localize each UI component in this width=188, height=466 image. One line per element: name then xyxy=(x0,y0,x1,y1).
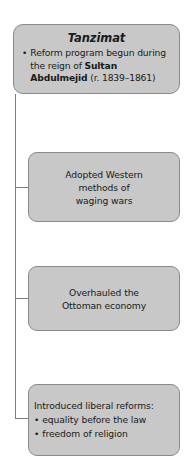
node-child-line: Overhauled the xyxy=(69,286,139,299)
root-bullet-item: • Reform program begun during the reign … xyxy=(20,47,173,85)
node-child-military: Adopted Western methods of waging wars xyxy=(28,152,180,222)
node-child-economy: Overhauled the Ottoman economy xyxy=(28,266,180,331)
bullet-dot-icon: • xyxy=(22,47,27,60)
root-bullet-text: Reform program begun during the reign of… xyxy=(30,47,173,85)
node-child-liberal-reforms: Introduced liberal reforms: • equality b… xyxy=(28,384,180,456)
node-child-line: waging wars xyxy=(76,194,133,207)
node-child-bullet-text: freedom of religion xyxy=(42,427,127,441)
root-title: Tanzimat xyxy=(20,32,173,45)
connector-stub-2 xyxy=(15,298,29,299)
connector-spine xyxy=(15,94,16,418)
node-root-tanzimat: Tanzimat • Reform program begun during t… xyxy=(13,24,180,94)
connector-stub-1 xyxy=(15,187,29,188)
node-child-bullet-item: • equality before the law xyxy=(34,413,146,427)
node-child-line: Ottoman economy xyxy=(62,299,146,312)
node-child-heading: Introduced liberal reforms: xyxy=(34,399,154,413)
tanzimat-flowchart: Tanzimat • Reform program begun during t… xyxy=(0,0,188,466)
bullet-dot-icon: • xyxy=(34,413,39,427)
root-bullet-tail: (r. 1839–1861) xyxy=(87,72,155,83)
node-child-bullet-text: equality before the law xyxy=(42,413,146,427)
connector-stub-3 xyxy=(15,418,29,419)
bullet-dot-icon: • xyxy=(34,427,39,441)
node-child-line: methods of xyxy=(78,181,129,194)
node-child-bullet-item: • freedom of religion xyxy=(34,427,128,441)
node-child-line: Adopted Western xyxy=(65,168,143,181)
